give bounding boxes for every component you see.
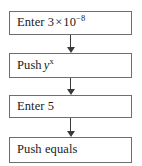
multiplication-sign: ×	[54, 15, 63, 29]
flowchart-step-3: Enter 5	[9, 95, 132, 118]
down-arrow-icon-3	[66, 118, 75, 137]
flowchart-step-4: Push equals	[9, 137, 132, 163]
step-1-exponent: −8	[76, 13, 85, 23]
arrow-stem	[70, 118, 71, 132]
step-2-exponent: x	[49, 56, 53, 66]
flowchart-step-2: Pushyx	[9, 53, 132, 78]
flowchart-diagram: Enter 3×10−8 Pushyx Enter 5 Push equals	[0, 0, 142, 166]
step-1-base: 10	[63, 15, 76, 29]
down-arrow-icon-2	[66, 78, 75, 95]
flowchart-step-2-label: Pushyx	[10, 59, 54, 72]
flowchart-step-3-label: Enter 5	[10, 100, 54, 113]
flowchart-step-1-label: Enter 3×10−8	[10, 16, 85, 29]
down-arrow-icon-1	[66, 35, 75, 53]
step-1-lead-text: Enter 3	[17, 15, 54, 29]
flowchart-step-4-label: Push equals	[10, 143, 77, 156]
step-2-lead-text: Push	[17, 58, 42, 72]
flowchart-step-1: Enter 3×10−8	[9, 11, 132, 35]
